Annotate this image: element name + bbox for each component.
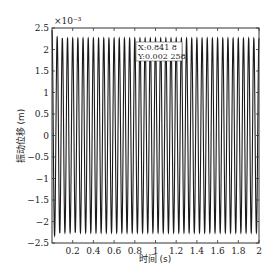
x-tick-label: 0.2 [66, 246, 80, 256]
x-tick-label: 1.4 [190, 246, 205, 256]
datatip-x: X:0.841 8 [138, 43, 177, 52]
x-tick-label: 2 [256, 246, 262, 256]
y-tick-label: 1.5 [35, 66, 50, 76]
x-tick-label: 0.6 [107, 246, 122, 256]
datatip-y: Y:0.002 258 [137, 52, 186, 61]
x-tick-label: 1.8 [231, 246, 246, 256]
y-axis-title: 振动位移 (m) [15, 109, 26, 164]
y-tick-label: −2 [36, 217, 49, 227]
x-axis-title: 时间 (s) [139, 253, 172, 264]
y-tick-label: 0.5 [35, 109, 50, 119]
x-tick-label: 1.6 [210, 246, 225, 256]
y-tick-label: 2 [43, 45, 49, 55]
y-exponent-label: ×10⁻³ [54, 16, 82, 26]
y-tick-label: 0 [43, 131, 49, 141]
x-tick-label: 0.4 [86, 246, 101, 256]
vibration-displacement-chart: 0.20.40.60.811.21.41.61.82 −2.5−2−1.5−1−… [0, 0, 278, 280]
datatip[interactable]: X:0.841 8 Y:0.002 258 [136, 42, 186, 61]
y-tick-label: −0.5 [27, 152, 49, 162]
y-tick-label: 2.5 [35, 23, 50, 33]
y-tick-label: 1 [43, 88, 49, 98]
y-tick-label: −2.5 [27, 238, 49, 248]
y-tick-label: −1 [36, 174, 49, 184]
y-tick-label: −1.5 [27, 195, 49, 205]
